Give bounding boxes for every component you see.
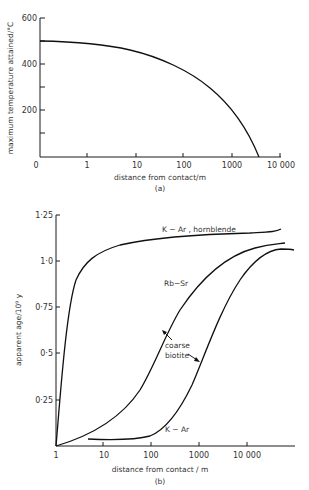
chart-b-y-ticks (56, 215, 60, 400)
chart-a-ytick-600: 600 (22, 14, 37, 23)
chart-a-xlabel: distance from contact/m (114, 173, 206, 182)
chart-b-ytick-1.25: 1·25 (35, 211, 53, 220)
chart-b-annotation-coarse: coarse (165, 341, 190, 350)
chart-a-ylabel: maximum temperature attained/°C (6, 22, 15, 155)
chart-b-xtick-10: 10 (99, 451, 109, 460)
chart-b-ytick-0.5: 0·5 (40, 349, 53, 358)
chart-b-x-ticks (103, 442, 247, 446)
chart-b-annotation-kar: K − Ar (165, 425, 190, 434)
chart-b-xtick-1000: 1000 (189, 451, 209, 460)
figure: 600 400 200 0 1 10 100 1000 10 000 maxim… (0, 0, 309, 490)
chart-b-ytick-0.25: 0·25 (35, 396, 53, 405)
chart-b-annotation-rbsr: Rb−Sr (164, 279, 189, 288)
chart-a-panel-label: (a) (155, 184, 166, 193)
chart-b-curve-kar-hornblende (56, 229, 281, 446)
chart-a-temperature-curve (40, 41, 259, 157)
chart-a-ytick-400: 400 (22, 60, 37, 69)
chart-b-ytick-1.0: 1·0 (40, 257, 53, 266)
chart-b-xtick-100: 100 (143, 451, 158, 460)
chart-b-xtick-1: 1 (53, 451, 58, 460)
chart-b-arrow-to-rbsr (162, 330, 172, 340)
chart-b-ylabel: apparent age/10⁹ y (14, 293, 23, 366)
chart-b-xlabel: distance from contact / m (112, 465, 209, 474)
chart-b-curve-kar (88, 249, 294, 440)
chart-a-xtick-1: 1 (84, 161, 89, 170)
chart-b: 1·25 1·0 0·75 0·5 0·25 1 10 100 1000 10 … (14, 211, 295, 486)
chart-b-annotation-biotite: biotite (165, 351, 189, 360)
chart-a-x-ticks (87, 153, 280, 157)
chart-b-arrow-to-kar (188, 354, 200, 362)
chart-a-xtick-1000: 1000 (222, 161, 242, 170)
chart-b-panel-label: (b) (155, 477, 166, 486)
chart-a: 600 400 200 0 1 10 100 1000 10 000 maxim… (6, 14, 295, 193)
chart-a-xtick-100: 100 (176, 161, 191, 170)
chart-b-ytick-0.75: 0·75 (35, 303, 53, 312)
chart-a-y-ticks (40, 18, 45, 133)
chart-a-ytick-200: 200 (22, 106, 37, 115)
chart-b-xtick-10000: 10 000 (233, 451, 261, 460)
chart-a-xtick-10: 10 (132, 161, 142, 170)
chart-a-xtick-10000: 10 000 (267, 161, 295, 170)
chart-a-xtick-0: 0 (33, 161, 38, 170)
chart-b-annotation-kar-hornblende: K − Ar , hornblende (162, 225, 236, 234)
